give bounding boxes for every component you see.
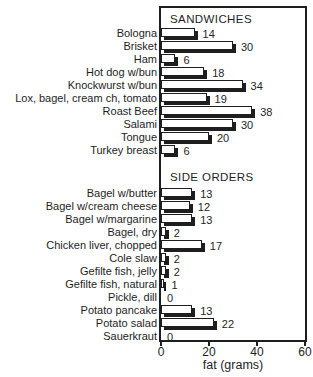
bar	[161, 132, 209, 141]
bar	[161, 318, 214, 327]
value-label: 6	[183, 54, 189, 66]
value-label: 34	[251, 80, 263, 92]
category-label: Bologna	[0, 27, 157, 39]
category-label: Bagel w/butter	[0, 187, 157, 199]
category-label: Bagel, dry	[0, 226, 157, 238]
category-label: Bagel w/cream cheese	[0, 200, 157, 212]
value-label: 0	[167, 292, 173, 304]
bar	[161, 253, 166, 262]
bar	[161, 41, 233, 50]
category-label: Knockwurst w/bun	[0, 79, 157, 91]
category-label: Potato pancake	[0, 304, 157, 316]
bar	[161, 145, 175, 154]
bar	[161, 119, 233, 128]
bar	[161, 67, 204, 76]
group-header-sandwiches: SANDWICHES	[170, 12, 252, 26]
category-label: Bagel w/margarine	[0, 213, 157, 225]
category-label: Pickle, dill	[0, 291, 157, 303]
bar	[161, 106, 252, 115]
value-label: 2	[174, 253, 180, 265]
value-label: 38	[260, 106, 272, 118]
category-label: Hot dog w/bun	[0, 66, 157, 78]
bar	[161, 214, 192, 223]
category-label: Turkey breast	[0, 144, 157, 156]
category-label: Cole slaw	[0, 252, 157, 264]
bar-shadow	[164, 282, 166, 291]
value-label: 19	[215, 93, 227, 105]
category-label: Gefilte fish, natural	[0, 278, 157, 290]
value-label: 22	[222, 318, 234, 330]
value-label: 1	[171, 279, 177, 291]
value-label: 13	[200, 305, 212, 317]
value-label: 2	[174, 227, 180, 239]
value-label: 14	[203, 28, 215, 40]
fat-grams-bar-chart: SANDWICHESBologna14Brisket30Ham6Hot dog …	[0, 0, 313, 377]
bar	[161, 201, 190, 210]
category-label: Sauerkraut	[0, 330, 157, 342]
value-label: 6	[183, 145, 189, 157]
category-label: Lox, bagel, cream ch, tomato	[0, 92, 157, 104]
bar	[161, 266, 166, 275]
value-label: 13	[200, 188, 212, 200]
group-header-side-orders: SIDE ORDERS	[170, 170, 254, 184]
bar	[161, 188, 192, 197]
category-label: Tongue	[0, 131, 157, 143]
category-label: Gefilte fish, jelly	[0, 265, 157, 277]
bar	[161, 54, 175, 63]
category-label: Brisket	[0, 40, 157, 52]
value-label: 20	[217, 132, 229, 144]
bar	[161, 93, 207, 102]
bar	[161, 240, 202, 249]
value-label: 12	[198, 201, 210, 213]
value-label: 2	[174, 266, 180, 278]
value-label: 17	[210, 240, 222, 252]
category-label: Roast Beef	[0, 105, 157, 117]
value-label: 30	[241, 41, 253, 53]
category-label: Salami	[0, 118, 157, 130]
category-label: Chicken liver, chopped	[0, 239, 157, 251]
bar	[161, 305, 192, 314]
bar	[161, 28, 195, 37]
value-label: 13	[200, 214, 212, 226]
bar	[161, 227, 166, 236]
value-label: 30	[241, 119, 253, 131]
value-label: 18	[212, 67, 224, 79]
value-label: 0	[167, 331, 173, 343]
category-label: Potato salad	[0, 317, 157, 329]
category-label: Ham	[0, 53, 157, 65]
x-axis-title: fat (grams)	[131, 358, 313, 372]
bar	[161, 80, 243, 89]
bar	[161, 279, 164, 288]
